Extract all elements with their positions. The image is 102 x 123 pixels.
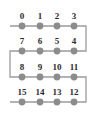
node-label-6: 6 <box>38 36 43 46</box>
node-label-15: 15 <box>18 87 28 97</box>
node-label-group: 0123456789101112131415 <box>18 11 80 97</box>
node-1 <box>37 23 44 30</box>
node-4 <box>71 48 78 55</box>
node-15 <box>19 99 26 106</box>
node-6 <box>37 48 44 55</box>
node-label-12: 12 <box>70 87 80 97</box>
node-label-9: 9 <box>38 62 43 72</box>
node-13 <box>54 99 61 106</box>
node-3 <box>71 23 78 30</box>
node-label-8: 8 <box>20 62 25 72</box>
node-label-2: 2 <box>55 11 60 21</box>
node-5 <box>54 48 61 55</box>
node-label-10: 10 <box>53 62 63 72</box>
node-label-14: 14 <box>36 87 46 97</box>
node-0 <box>19 23 26 30</box>
node-11 <box>71 74 78 81</box>
node-label-7: 7 <box>20 36 25 46</box>
node-14 <box>37 99 44 106</box>
node-label-11: 11 <box>70 62 79 72</box>
node-2 <box>54 23 61 30</box>
boustrophedon-diagram: 0123456789101112131415 <box>0 0 102 123</box>
snake-path-svg: 0123456789101112131415 <box>0 0 102 123</box>
node-label-3: 3 <box>72 11 77 21</box>
node-9 <box>37 74 44 81</box>
node-10 <box>54 74 61 81</box>
node-7 <box>19 48 26 55</box>
node-8 <box>19 74 26 81</box>
node-12 <box>71 99 78 106</box>
node-label-1: 1 <box>38 11 43 21</box>
node-label-4: 4 <box>72 36 77 46</box>
node-label-13: 13 <box>53 87 63 97</box>
node-label-0: 0 <box>20 11 25 21</box>
node-label-5: 5 <box>55 36 60 46</box>
